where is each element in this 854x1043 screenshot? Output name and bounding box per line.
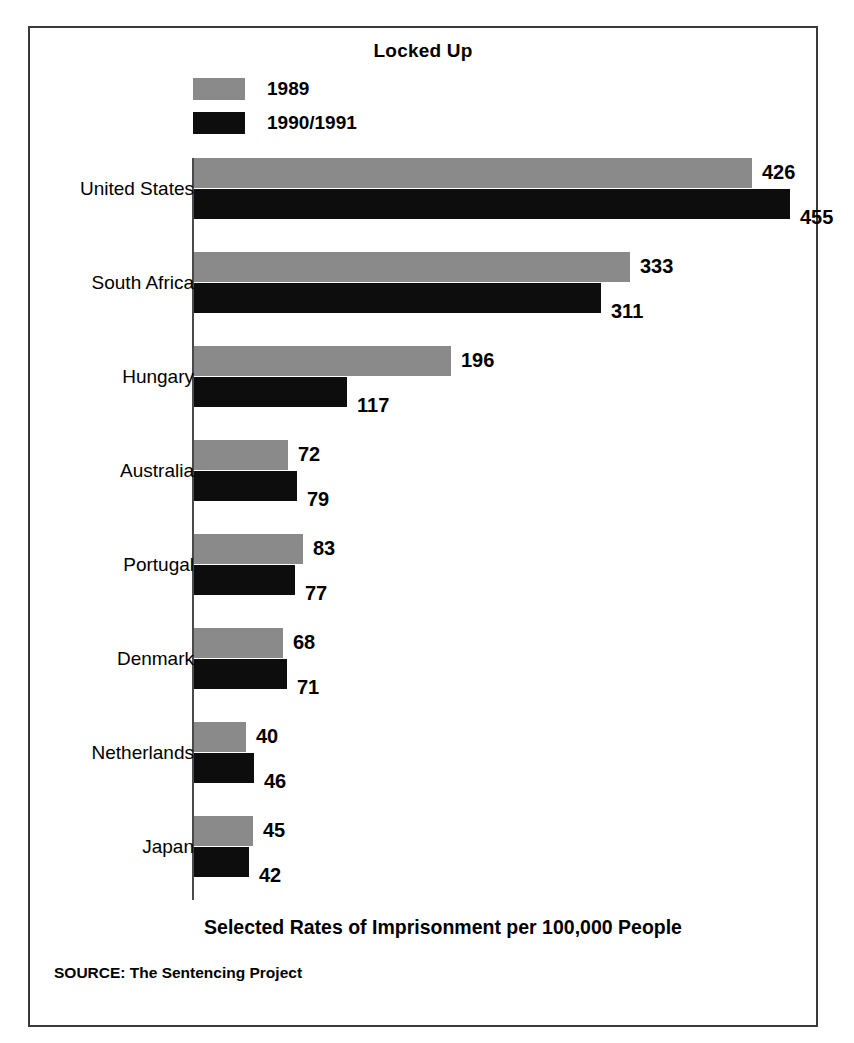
bar-group: United States426455 (30, 158, 816, 220)
bar-1990-1991: 311 (194, 283, 643, 313)
bar-1989: 83 (194, 534, 335, 564)
bar-rect-1990-1991 (194, 753, 254, 783)
bar-rect-1990-1991 (194, 283, 601, 313)
bar-rect-1990-1991 (194, 189, 790, 219)
bar-1990-1991: 455 (194, 189, 833, 219)
bar-group: Denmark6871 (30, 628, 816, 690)
bar-1990-1991: 71 (194, 659, 319, 689)
bar-group: Portugal8377 (30, 534, 816, 596)
axis-caption: Selected Rates of Imprisonment per 100,0… (30, 916, 816, 939)
bar-1989: 333 (194, 252, 673, 282)
bar-rect-1989 (194, 816, 253, 846)
bar-rect-1990-1991 (194, 471, 297, 501)
bar-1989: 40 (194, 722, 278, 752)
bar-1990-1991: 79 (194, 471, 329, 501)
bar-value-label: 311 (611, 300, 643, 323)
bar-value-label: 117 (357, 394, 389, 417)
bar-rect-1990-1991 (194, 565, 295, 595)
bar-1989: 45 (194, 816, 285, 846)
legend-label-1989: 1989 (267, 78, 309, 100)
bar-rect-1989 (194, 440, 288, 470)
bar-value-label: 83 (313, 537, 335, 560)
legend-item-1990-1991: 1990/1991 (193, 106, 357, 140)
bar-value-label: 40 (256, 725, 278, 748)
bar-value-label: 455 (800, 206, 833, 229)
bar-rect-1989 (194, 534, 303, 564)
bar-value-label: 42 (259, 864, 281, 887)
bar-group: Japan4542 (30, 816, 816, 878)
legend-swatch-1989 (193, 78, 245, 100)
bar-value-label: 72 (298, 443, 320, 466)
source-note: SOURCE: The Sentencing Project (54, 964, 302, 982)
bar-value-label: 333 (640, 255, 673, 278)
bar-1989: 426 (194, 158, 795, 188)
category-label: Netherlands (92, 742, 194, 764)
category-label: United States (80, 178, 194, 200)
bar-1989: 196 (194, 346, 494, 376)
bar-value-label: 46 (264, 770, 286, 793)
bar-1990-1991: 117 (194, 377, 389, 407)
bar-value-label: 77 (305, 582, 327, 605)
chart-legend: 1989 1990/1991 (193, 72, 357, 140)
bar-rect-1990-1991 (194, 847, 249, 877)
bar-group: Australia7279 (30, 440, 816, 502)
bar-1990-1991: 46 (194, 753, 286, 783)
category-label: Denmark (117, 648, 194, 670)
category-label: Australia (120, 460, 194, 482)
bar-group: Hungary196117 (30, 346, 816, 408)
chart-title: Locked Up (30, 40, 816, 62)
bar-value-label: 71 (297, 676, 319, 699)
bar-value-label: 68 (293, 631, 315, 654)
bar-1990-1991: 77 (194, 565, 327, 595)
bar-rect-1989 (194, 346, 451, 376)
category-label: Japan (142, 836, 194, 858)
category-label: South Africa (92, 272, 194, 294)
bar-1989: 72 (194, 440, 320, 470)
legend-swatch-1990-1991 (193, 112, 245, 134)
legend-item-1989: 1989 (193, 72, 357, 106)
bar-rect-1989 (194, 628, 283, 658)
bar-rect-1989 (194, 252, 630, 282)
bar-rect-1990-1991 (194, 659, 287, 689)
bar-rect-1989 (194, 722, 246, 752)
plot-area: United States426455South Africa333311Hun… (30, 154, 816, 906)
bar-group: South Africa333311 (30, 252, 816, 314)
category-label: Portugal (123, 554, 194, 576)
bar-rect-1990-1991 (194, 377, 347, 407)
bar-1989: 68 (194, 628, 315, 658)
category-label: Hungary (122, 366, 194, 388)
bar-value-label: 426 (762, 161, 795, 184)
legend-label-1990-1991: 1990/1991 (267, 112, 357, 134)
bar-rect-1989 (194, 158, 752, 188)
bar-group: Netherlands4046 (30, 722, 816, 784)
bar-value-label: 79 (307, 488, 329, 511)
bar-value-label: 45 (263, 819, 285, 842)
bar-value-label: 196 (461, 349, 494, 372)
bar-1990-1991: 42 (194, 847, 281, 877)
figure-frame: Locked Up 1989 1990/1991 United States42… (28, 26, 818, 1027)
